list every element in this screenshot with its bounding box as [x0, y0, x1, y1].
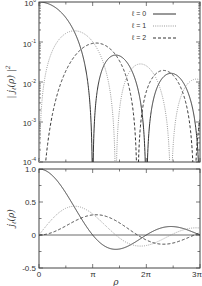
- legend-label-l2: ℓ = 2: [131, 34, 146, 41]
- ytick-0.5: 0.5: [25, 198, 37, 207]
- ytick-neg0.5: -0.5: [22, 264, 36, 273]
- xtick-3pi: 3π: [192, 270, 202, 279]
- curve-l1-squared: [39, 31, 200, 164]
- figure: 100 10-1 10-2 10-3 10-4 | jℓ(ρ) |2 ℓ = 0…: [0, 0, 202, 286]
- bottom-panel-ticks: [39, 169, 200, 268]
- ytick-0: 0: [32, 231, 37, 240]
- curve-l2-squared: [39, 43, 200, 164]
- xtick-2pi: 2π: [141, 270, 151, 279]
- bottom-panel-frame: [39, 169, 200, 268]
- curve-l1: [39, 206, 200, 246]
- legend: ℓ = 0 ℓ = 1 ℓ = 2: [131, 10, 176, 41]
- curve-l2: [39, 215, 200, 244]
- xtick-labels: 0 π 2π 3π: [37, 270, 202, 279]
- ytick-1e-2: 10-2: [23, 78, 37, 89]
- xtick-pi: π: [90, 270, 96, 279]
- ytick-1e-1: 10-1: [23, 38, 37, 49]
- top-ytick-labels: 100 10-1 10-2 10-3 10-4: [23, 0, 37, 167]
- ytick-1.0: 1.0: [25, 165, 37, 174]
- xlabel: ρ: [112, 277, 119, 286]
- ytick-1e0: 100: [24, 0, 36, 8]
- legend-label-l1: ℓ = 1: [131, 22, 146, 29]
- bottom-ytick-labels: 1.0 0.5 0 -0.5: [22, 165, 36, 273]
- legend-label-l0: ℓ = 0: [131, 10, 146, 17]
- top-ylabel: | jℓ(ρ) |2: [4, 65, 17, 98]
- bottom-panel-curves: [39, 169, 200, 249]
- bottom-ylabel: jℓ(ρ): [6, 209, 17, 229]
- xtick-0: 0: [37, 270, 42, 279]
- ytick-1e-3: 10-3: [23, 117, 37, 128]
